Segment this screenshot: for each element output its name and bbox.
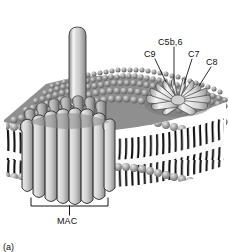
label-c5b6: C5b,6	[158, 38, 183, 47]
label-mac: MAC	[57, 217, 77, 226]
c9-monomer	[69, 27, 86, 107]
label-c9: C9	[144, 50, 156, 59]
label-c8: C8	[206, 58, 218, 67]
label-c7: C7	[188, 50, 200, 59]
figure-caption: (a)	[3, 242, 14, 252]
leader-c8	[199, 67, 211, 86]
mac-pore-barrel	[20, 96, 115, 205]
